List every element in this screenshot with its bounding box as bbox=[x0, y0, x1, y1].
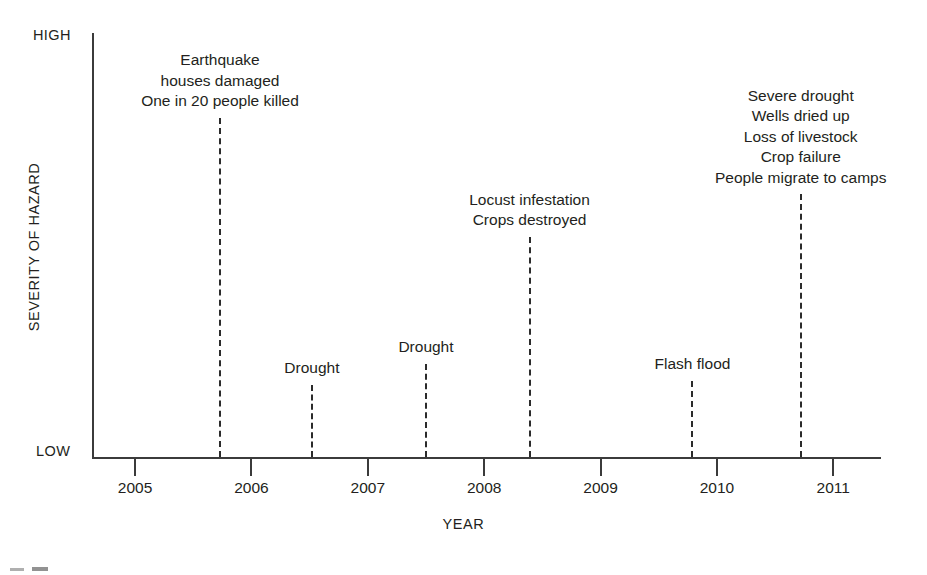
y-axis-low-label: LOW bbox=[36, 443, 70, 459]
hazard-timeline-chart: HIGH LOW SEVERITY OF HAZARD YEAR 2005200… bbox=[0, 0, 927, 575]
event-label-severe-drought: Severe droughtWells dried upLoss of live… bbox=[715, 86, 886, 189]
event-label-line: Drought bbox=[284, 358, 339, 379]
y-axis-title: SEVERITY OF HAZARD bbox=[26, 147, 42, 347]
event-label-locust-infestation: Locust infestationCrops destroyed bbox=[469, 190, 590, 231]
x-tick-2010 bbox=[716, 459, 718, 476]
event-label-line: People migrate to camps bbox=[715, 168, 886, 189]
event-label-line: One in 20 people killed bbox=[141, 91, 299, 112]
event-label-line: Crops destroyed bbox=[469, 210, 590, 231]
x-axis-line bbox=[92, 457, 881, 459]
x-tick-2008 bbox=[483, 459, 485, 476]
x-tick-2009 bbox=[600, 459, 602, 476]
event-label-earthquake: Earthquakehouses damagedOne in 20 people… bbox=[141, 50, 299, 112]
x-tick-label-2008: 2008 bbox=[467, 479, 501, 497]
y-axis-high-label: HIGH bbox=[33, 27, 71, 43]
event-label-line: Loss of livestock bbox=[715, 127, 886, 148]
x-tick-2005 bbox=[134, 459, 136, 476]
x-tick-2011 bbox=[832, 459, 834, 476]
event-line-severe-drought bbox=[800, 194, 802, 457]
event-label-line: Flash flood bbox=[655, 354, 731, 375]
event-label-flash-flood: Flash flood bbox=[655, 354, 731, 375]
event-label-line: Crop failure bbox=[715, 147, 886, 168]
x-tick-label-2006: 2006 bbox=[234, 479, 268, 497]
x-tick-label-2007: 2007 bbox=[351, 479, 385, 497]
x-tick-label-2010: 2010 bbox=[700, 479, 734, 497]
x-tick-label-2005: 2005 bbox=[118, 479, 152, 497]
event-line-drought-2007 bbox=[425, 364, 427, 457]
event-label-line: Severe drought bbox=[715, 86, 886, 107]
event-line-earthquake bbox=[219, 118, 221, 457]
x-tick-2007 bbox=[367, 459, 369, 476]
scan-artifact bbox=[8, 563, 50, 571]
event-label-drought-2007: Drought bbox=[398, 337, 453, 358]
x-tick-2006 bbox=[250, 459, 252, 476]
event-line-locust-infestation bbox=[529, 237, 531, 457]
y-axis-line bbox=[92, 33, 94, 459]
event-label-line: houses damaged bbox=[141, 71, 299, 92]
x-axis-title: YEAR bbox=[0, 516, 927, 532]
event-label-line: Earthquake bbox=[141, 50, 299, 71]
event-label-line: Locust infestation bbox=[469, 190, 590, 211]
event-label-drought-2006: Drought bbox=[284, 358, 339, 379]
event-label-line: Wells dried up bbox=[715, 106, 886, 127]
event-line-flash-flood bbox=[691, 381, 693, 457]
event-label-line: Drought bbox=[398, 337, 453, 358]
x-tick-label-2009: 2009 bbox=[583, 479, 617, 497]
x-tick-label-2011: 2011 bbox=[817, 479, 850, 497]
event-line-drought-2006 bbox=[311, 385, 313, 457]
